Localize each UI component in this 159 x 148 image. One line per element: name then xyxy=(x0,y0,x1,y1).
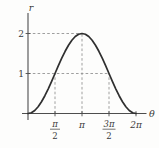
y-tick-label: 2 xyxy=(18,29,24,39)
x-tick-fraction-denominator: 2 xyxy=(106,131,111,141)
polar-r-vs-theta-figure: π2π3π22π12rθ xyxy=(0,0,159,148)
x-axis-label-theta: θ xyxy=(149,108,155,119)
plot-svg: π2π3π22π12rθ xyxy=(0,0,159,148)
y-axis-label-r: r xyxy=(29,2,35,13)
x-tick-fraction-numerator: π xyxy=(51,119,58,129)
x-tick-label: 2π xyxy=(129,120,143,130)
y-tick-label: 1 xyxy=(18,69,24,79)
x-tick-label: π xyxy=(78,120,86,130)
x-tick-fraction-denominator: 2 xyxy=(52,131,57,141)
x-tick-fraction-numerator: 3π xyxy=(104,119,115,129)
